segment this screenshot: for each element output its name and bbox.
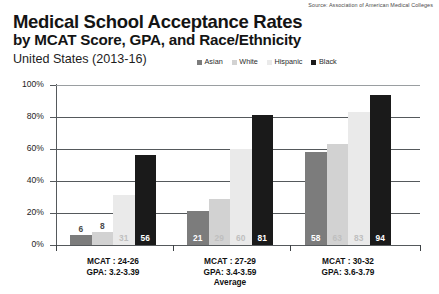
y-axis-tick-label: 60% [27, 144, 44, 153]
category-label-line: GPA: 3.4-3.59 [170, 267, 290, 278]
y-axis-tick [50, 149, 56, 150]
bar-white-group2[interactable]: 29 [209, 199, 231, 245]
x-axis-tick [420, 245, 421, 251]
bar-asian-group2[interactable]: 21 [187, 211, 209, 245]
category-label-line: MCAT : 30-32 [288, 256, 408, 267]
y-axis-tick [50, 117, 56, 118]
category-label-line: MCAT : 24-26 [53, 256, 173, 267]
bar-asian-group3[interactable]: 58 [305, 152, 327, 245]
bar-black-group3[interactable]: 94 [370, 95, 392, 245]
y-axis-tick-label: 100% [22, 80, 44, 89]
bar-value-label: 21 [193, 234, 202, 243]
x-axis-category-label-3: MCAT : 30-32GPA: 3.6-3.79 [288, 256, 408, 277]
bar-hispanic-group2[interactable]: 60 [230, 149, 252, 245]
y-axis-tick-label: 80% [27, 112, 44, 121]
bar-black-group1[interactable]: 56 [135, 155, 157, 245]
x-axis-category-label-1: MCAT : 24-26GPA: 3.2-3.39 [53, 256, 173, 277]
plot-area: 6831562129608158638394 [56, 85, 420, 245]
bar-hispanic-group1[interactable]: 31 [113, 195, 135, 245]
bar-value-label: 56 [141, 234, 150, 243]
y-axis-tick-label: 40% [27, 176, 44, 185]
y-axis-tick-label: 20% [27, 208, 44, 217]
bar-value-label: 31 [119, 234, 128, 243]
x-axis-title: Average [170, 277, 290, 288]
x-axis-category-label-2: MCAT : 27-29GPA: 3.4-3.59 [170, 256, 290, 277]
x-axis-tick [290, 245, 291, 251]
bar-white-group3[interactable]: 63 [327, 144, 349, 245]
y-axis-tick [50, 181, 56, 182]
bar-hispanic-group3[interactable]: 83 [348, 112, 370, 245]
bar-value-label: 83 [354, 234, 363, 243]
chart-area: 6831562129608158638394 0%20%40%60%80%100… [0, 0, 439, 294]
y-axis-tick [50, 85, 56, 86]
bar-value-label: 60 [236, 234, 245, 243]
x-axis-tick [173, 245, 174, 251]
bar-value-label: 94 [376, 234, 385, 243]
bar-black-group2[interactable]: 81 [252, 115, 274, 245]
y-axis-tick-label: 0% [32, 240, 44, 249]
category-label-line: GPA: 3.2-3.39 [53, 267, 173, 278]
bar-value-label: 8 [100, 222, 105, 231]
gridline [56, 245, 420, 246]
category-label-line: MCAT : 27-29 [170, 256, 290, 267]
bar-white-group1[interactable]: 8 [92, 232, 114, 245]
y-axis-tick [50, 213, 56, 214]
bar-value-label: 63 [333, 234, 342, 243]
bar-asian-group1[interactable]: 6 [70, 235, 92, 245]
bar-value-label: 6 [78, 225, 83, 234]
category-label-line: GPA: 3.6-3.79 [288, 267, 408, 278]
bar-value-label: 29 [215, 234, 224, 243]
x-axis-tick [56, 245, 57, 251]
gridline [56, 85, 420, 86]
bar-value-label: 58 [311, 234, 320, 243]
bar-value-label: 81 [258, 234, 267, 243]
